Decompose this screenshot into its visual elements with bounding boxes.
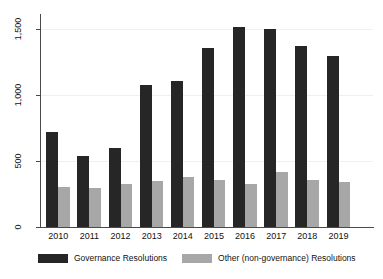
legend: Governance Resolutions Other (non-govern…: [38, 253, 356, 263]
x-tick-label-2010: 2010: [48, 231, 68, 241]
bar-other-2013: [152, 181, 164, 227]
y-tick-1000: [36, 95, 40, 96]
y-axis: [40, 14, 41, 228]
bar-governance-2010: [46, 132, 58, 227]
bar-other-2017: [276, 172, 288, 227]
legend-label-other: Other (non-governance) Resolutions: [218, 253, 356, 263]
bar-governance-2014: [171, 81, 183, 227]
x-tick-label-2019: 2019: [328, 231, 348, 241]
bar-governance-2019: [327, 56, 339, 227]
x-tick-label-2012: 2012: [111, 231, 131, 241]
bar-other-2011: [89, 188, 101, 227]
bar-governance-2016: [233, 27, 245, 227]
bar-other-2012: [121, 184, 133, 227]
x-tick-label-2014: 2014: [173, 231, 193, 241]
x-tick-label-2016: 2016: [235, 231, 255, 241]
bar-governance-2015: [202, 48, 214, 227]
legend-swatch-governance: [38, 254, 68, 263]
bar-other-2014: [183, 177, 195, 227]
x-tick-label-2017: 2017: [266, 231, 286, 241]
bar-governance-2012: [109, 148, 121, 227]
y-tick-label-0: 0: [14, 224, 23, 229]
bar-chart-figure: Governance Resolutions Other (non-govern…: [0, 0, 383, 279]
y-tick-0: [36, 227, 40, 228]
y-tick-label-500: 500: [14, 154, 23, 169]
bar-governance-2011: [77, 156, 89, 227]
bar-other-2018: [307, 180, 319, 227]
bar-governance-2018: [295, 46, 307, 227]
gridline-1500: [41, 29, 373, 30]
legend-entry-other: Other (non-governance) Resolutions: [182, 253, 356, 263]
y-tick-label-1000: 1,000: [14, 84, 23, 107]
x-tick-label-2015: 2015: [204, 231, 224, 241]
bar-governance-2017: [264, 29, 276, 227]
legend-swatch-other: [182, 254, 212, 263]
bar-other-2010: [58, 187, 70, 227]
bar-governance-2013: [140, 85, 152, 227]
x-axis: [40, 227, 374, 228]
x-tick-label-2018: 2018: [297, 231, 317, 241]
y-tick-1500: [36, 29, 40, 30]
legend-entry-governance: Governance Resolutions: [38, 253, 167, 263]
bar-other-2016: [245, 184, 257, 227]
bar-other-2019: [339, 182, 351, 227]
legend-label-governance: Governance Resolutions: [74, 253, 167, 263]
x-tick-label-2011: 2011: [80, 231, 99, 241]
bar-other-2015: [214, 180, 226, 227]
y-tick-500: [36, 161, 40, 162]
x-tick-label-2013: 2013: [142, 231, 162, 241]
y-tick-label-1500: 1,500: [14, 18, 23, 41]
